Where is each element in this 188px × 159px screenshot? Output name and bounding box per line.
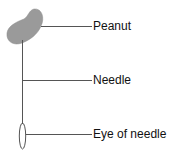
peanut-shape: [7, 9, 43, 44]
label-eye-of-needle: Eye of needle: [93, 127, 166, 141]
label-needle: Needle: [93, 73, 131, 87]
label-peanut: Peanut: [93, 19, 131, 33]
needle-eye: [19, 123, 25, 149]
